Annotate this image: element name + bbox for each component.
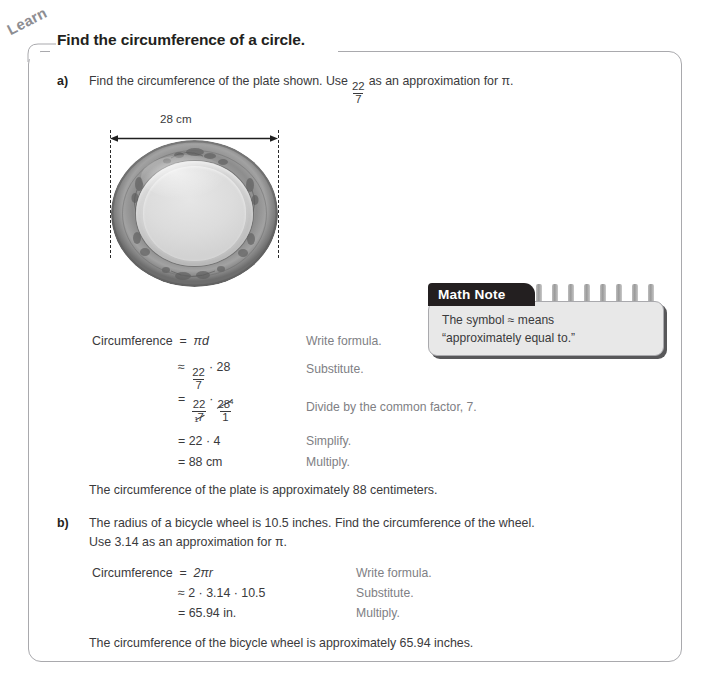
part-a-conclusion: The circumference of the plate is approx… [89, 483, 437, 497]
dimension-label: 28 cm [160, 112, 192, 125]
work-b-expr-1: 2πr [194, 566, 213, 580]
work-a-fraction-3a: 2217 [191, 399, 208, 424]
work-a-cancel-denominator: 17 [192, 411, 206, 424]
work-b-expr-3: 65.94 in. [189, 606, 237, 620]
plate-highlight [141, 155, 228, 199]
part-a-prompt-text-2: as an approximation for π. [369, 74, 514, 88]
work-b-annotation-3: Multiply. [356, 606, 400, 620]
math-note-line-1: The symbol ≈ means [442, 313, 554, 327]
work-b-relation-1: = [176, 566, 190, 580]
work-a-annotation-1: Write formula. [306, 334, 382, 348]
plate-photo [111, 140, 278, 287]
math-note-tab-label: Math Note [428, 283, 535, 306]
part-a-pi-fraction: 227 [350, 81, 367, 106]
work-a-dot-3: · [209, 392, 213, 406]
math-note-line-2: “approximately equal to.” [442, 331, 575, 345]
work-a-relation-2: ≈ [178, 360, 188, 374]
work-a-line-5: = 88 cm [178, 455, 222, 469]
work-a-relation-5: = [178, 455, 189, 469]
work-a-line-2: ≈ 227· 28 [178, 360, 230, 392]
work-a-relation-1: = [176, 334, 190, 348]
work-a-expr-1: πd [194, 334, 209, 348]
part-b-conclusion: The circumference of the bicycle wheel i… [89, 636, 473, 650]
work-a-annotation-5: Multiply. [306, 455, 350, 469]
work-a-annotation-3: Divide by the common factor, 7. [306, 400, 477, 414]
work-a-expr-4: 22 · 4 [189, 434, 221, 448]
work-b-annotation-2: Substitute. [356, 586, 414, 600]
work-b-line-2: ≈ 2 · 3.14 · 10.5 [178, 586, 265, 600]
part-a-label: a) [57, 74, 68, 88]
work-b-expr-2: 2 · 3.14 · 10.5 [188, 586, 265, 600]
part-a-prompt-text-1: Find the circumference of the plate show… [89, 74, 348, 88]
work-a-relation-3: = [178, 392, 189, 406]
learn-tab-label: Learn [4, 4, 49, 38]
work-a-fraction-3b: 2841 [216, 398, 236, 424]
extension-line-right [278, 130, 279, 258]
work-a-line-3: = 2217·2841 [178, 392, 237, 424]
work-b-line-1: Circumference = 2πr [92, 566, 213, 580]
work-b-lhs: Circumference [92, 566, 173, 580]
work-a-annotation-2: Substitute. [306, 362, 364, 376]
extension-line-left [110, 130, 111, 258]
work-b-annotation-1: Write formula. [356, 566, 432, 580]
work-a-fraction-2: 227 [190, 367, 207, 392]
part-a-prompt: Find the circumference of the plate show… [89, 74, 514, 106]
work-b-relation-2: ≈ [178, 586, 188, 600]
work-a-cancel-numerator: 284 [216, 398, 236, 411]
work-a-annotation-4: Simplify. [306, 434, 351, 448]
work-b-line-3: = 65.94 in. [178, 606, 236, 620]
math-note-callout: Math Note The symbol ≈ means “approximat… [428, 283, 666, 356]
work-a-lhs: Circumference [92, 334, 173, 348]
plate-figure: 28 cm [100, 112, 296, 288]
work-a-expr-5: 88 cm [189, 455, 223, 469]
work-b-relation-3: = [178, 606, 189, 620]
part-b-prompt-line-2: Use 3.14 as an approximation for π. [89, 535, 287, 549]
work-a-relation-4: = [178, 434, 189, 448]
worksheet-page: Learn Find the circumference of a circle… [0, 0, 713, 678]
work-a-line-1: Circumference = πd [92, 334, 209, 348]
work-a-mult-2: · 28 [209, 360, 230, 374]
part-b-label: b) [57, 516, 69, 530]
page-title: Find the circumference of a circle. [57, 31, 305, 49]
part-b-prompt-line-1: The radius of a bicycle wheel is 10.5 in… [89, 516, 535, 530]
math-note-body: The symbol ≈ means “approximately equal … [428, 301, 664, 356]
work-a-line-4: = 22 · 4 [178, 434, 220, 448]
